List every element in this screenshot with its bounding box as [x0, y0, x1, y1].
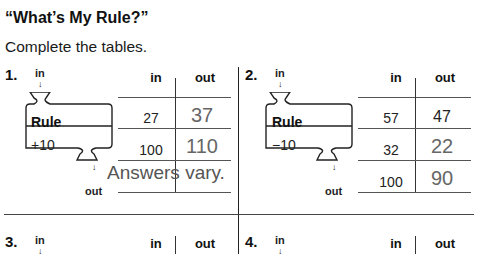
table-rule-line: [358, 128, 471, 129]
machine-in-label: in: [275, 234, 285, 246]
table-cell-out[interactable]: 90: [416, 167, 468, 190]
down-arrow-icon: ↓: [332, 163, 337, 172]
table-rule-line: [118, 160, 231, 161]
worksheet-title: “What’s My Rule?”: [5, 9, 148, 27]
machine-in-label: in: [35, 234, 45, 246]
table-cell-in: 100: [366, 174, 416, 190]
rule-value: +10: [31, 137, 55, 153]
table-header-in: in: [376, 70, 416, 85]
table-header-out: out: [180, 236, 230, 251]
answers-vary-note: Answers vary.: [107, 162, 225, 184]
table-rule-line: [118, 192, 231, 193]
table-rule-line: [358, 160, 471, 161]
rule-label: Rule: [272, 114, 302, 130]
table-cell-out[interactable]: 110: [176, 135, 228, 158]
table-cell-in: 100: [126, 142, 176, 158]
vertical-divider: [238, 67, 239, 254]
rule-value: −10: [272, 137, 296, 153]
table-column-divider: [175, 236, 176, 254]
table-cell-out[interactable]: 22: [416, 135, 468, 158]
problem-number: 1.: [5, 66, 18, 83]
problem-number: 4.: [245, 233, 258, 250]
down-arrow-icon: ↓: [38, 247, 43, 254]
table-cell-in: 32: [366, 142, 416, 158]
table-header-out: out: [420, 236, 470, 251]
table-header-out: out: [180, 70, 230, 85]
table-cell-in: 57: [366, 110, 416, 126]
table-rule-line: [118, 128, 231, 129]
down-arrow-icon: ↓: [92, 163, 97, 172]
table-rule-line: [358, 192, 471, 193]
horizontal-divider: [4, 214, 474, 215]
table-header-out: out: [420, 70, 470, 85]
table-header-in: in: [136, 236, 176, 251]
table-cell-out: 47: [416, 108, 468, 126]
table-header-in: in: [376, 236, 416, 251]
machine-in-label: in: [35, 67, 45, 79]
table-cell-out[interactable]: 37: [176, 104, 228, 127]
machine-in-label: in: [275, 67, 285, 79]
worksheet-instructions: Complete the tables.: [5, 38, 147, 56]
problem-number: 2.: [245, 66, 258, 83]
down-arrow-icon: ↓: [38, 80, 43, 89]
table-header-in: in: [136, 70, 176, 85]
down-arrow-icon: ↓: [278, 247, 283, 254]
down-arrow-icon: ↓: [278, 80, 283, 89]
rule-label: Rule: [31, 114, 61, 130]
table-cell-in: 27: [126, 110, 176, 126]
problem-number: 3.: [5, 233, 18, 250]
table-column-divider: [415, 236, 416, 254]
machine-out-label: out: [85, 185, 102, 197]
machine-out-label: out: [325, 185, 342, 197]
